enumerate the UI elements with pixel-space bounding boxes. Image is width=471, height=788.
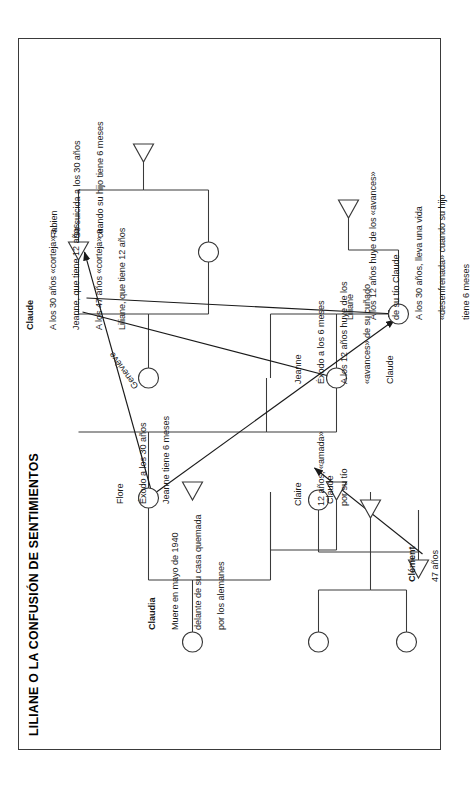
label-liliane-note-1: de su tío Claude	[390, 255, 400, 320]
label-claude-note-1: Jeanne, que tiene 12 años	[70, 224, 80, 330]
genogram-surface: LILIANE O LA CONFUSIÓN DE SENTIMIENTOS	[18, 38, 441, 750]
label-claude-note-2: A los 47 años «corteja» a	[93, 229, 103, 330]
symbol-fabien-child	[133, 144, 153, 162]
label-liliane-name: Liliane	[344, 294, 354, 320]
rotated-diagram-canvas: LILIANE O LA CONFUSIÓN DE SENTIMIENTOS	[18, 38, 441, 750]
symbol-claire-parent-a	[308, 632, 328, 652]
label-jeanne-note-0: Éxodo a los 6 meses	[315, 301, 325, 384]
symbol-claire-sibling	[360, 500, 380, 518]
label-fabien-note-0: Se suicida a los 30 años	[71, 141, 81, 238]
label-claude-note-3: Liliane, que tiene 12 años	[116, 228, 126, 330]
label-clement-note-0: 47 años	[429, 550, 439, 582]
page-frame: LILIANE O LA CONFUSIÓN DE SENTIMIENTOS	[18, 38, 441, 750]
label-liliane: Liliane A los 12 años huye de los «avanc…	[332, 110, 471, 320]
label-claire-note-0: 12 años, «amada»	[315, 431, 325, 506]
label-liliane-note-3: «desenfrenada» cuando su hijo	[436, 195, 446, 320]
symbol-claire-parent-b	[396, 632, 416, 652]
label-fabien-note-1: cuando su hijo tiene 6 meses	[94, 122, 104, 238]
label-liliane-note-4: tiene 6 meses	[460, 264, 470, 320]
label-claudia-name: Claudia	[146, 598, 156, 631]
label-jeanne-note-3: Claude	[384, 355, 394, 384]
label-claudia-note-2: por los alemanes	[215, 562, 225, 630]
label-fabien: Fabien Se suicida a los 30 años cuando s…	[36, 68, 106, 238]
symbol-claudia	[182, 632, 202, 652]
label-flore-note-1: Jeanne tiene 6 meses	[160, 416, 170, 504]
label-claudia-note-1: delante de su casa quemada	[192, 515, 202, 631]
label-flore-name: Flore	[114, 484, 124, 504]
label-fabien-name: Fabien	[48, 210, 58, 238]
label-claude-name: Claude	[24, 300, 34, 330]
label-flore-note-0: Éxodo a los 30 años	[137, 423, 147, 504]
symbol-genevieve-partner	[198, 242, 218, 262]
label-claire-note-1: por su tío	[338, 469, 348, 506]
label-claudia-note-0: Muere en mayo de 1940	[169, 532, 179, 630]
label-liliane-note-2: A los 30 años, lleva una vida	[413, 206, 423, 320]
label-clement-name: Clément	[406, 546, 416, 582]
label-clement: Clément 47 años	[394, 472, 440, 582]
label-claire: Claire 12 años, «amada» por su tío	[280, 376, 350, 506]
label-claude-note-0: A los 30 años «corteja» a	[47, 229, 57, 330]
label-claire-name: Claire	[292, 483, 302, 506]
label-liliane-note-0: A los 12 años huye de los «avances»	[367, 172, 377, 320]
label-flore: Flore Éxodo a los 30 años Jeanne tiene 6…	[102, 374, 172, 504]
